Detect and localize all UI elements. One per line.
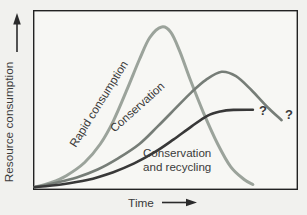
x-axis-label: Time	[128, 196, 154, 210]
y-axis-arrow-icon	[13, 13, 21, 52]
question-mark-recycling: ?	[259, 103, 267, 118]
question-mark-conservation: ?	[285, 107, 293, 122]
x-axis-arrow-icon	[162, 199, 197, 207]
figure-svg: Rapid consumption Conservation Conservat…	[0, 0, 307, 215]
conservation-recycling-label-line2: and recycling	[143, 160, 211, 173]
y-axis-label: Resource consumption	[2, 62, 16, 183]
resource-consumption-figure: Rapid consumption Conservation Conservat…	[0, 0, 307, 215]
conservation-recycling-label-line1: Conservation	[143, 146, 211, 159]
